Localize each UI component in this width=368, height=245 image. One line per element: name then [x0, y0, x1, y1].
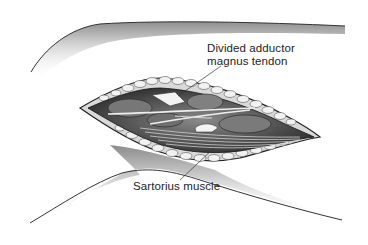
label-sartorius-muscle: Sartorius muscle [133, 180, 220, 193]
label-line: magnus tendon [207, 55, 295, 68]
illustration-canvas [0, 0, 368, 245]
upper-skin-contour [31, 22, 345, 80]
label-line: Divided adductor [207, 42, 295, 55]
label-line: Sartorius muscle [133, 180, 220, 193]
label-adductor-magnus-tendon: Divided adductor magnus tendon [207, 42, 295, 68]
